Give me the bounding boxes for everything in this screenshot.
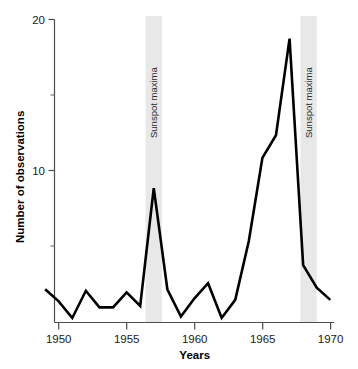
y-tick-label-20: 20 [32,14,45,26]
x-tick-label-1965: 1965 [250,333,276,345]
x-axis-title: Years [179,349,210,361]
sunspot-band-1957 [146,16,162,322]
y-axis-title: Number of observations [14,111,26,243]
x-tick-label-1960: 1960 [182,333,208,345]
sunspot-observations-line-chart: Sunspot maxima Sunspot maxima 20 10 1950… [0,0,358,369]
x-tick-label-1955: 1955 [114,333,140,345]
observations-line [45,39,330,318]
x-tick-label-1950: 1950 [46,333,72,345]
x-tick-label-1970: 1970 [318,333,344,345]
sunspot-band-label-1968: Sunspot maxima [303,67,314,138]
sunspot-band-label-1957: Sunspot maxima [148,67,159,138]
chart-figure: Sunspot maxima Sunspot maxima 20 10 1950… [0,0,358,369]
y-tick-label-10: 10 [32,165,45,177]
